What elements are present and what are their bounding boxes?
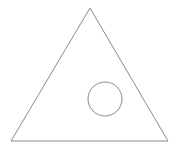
canvas-background bbox=[0, 0, 179, 152]
geometric-figure-canvas bbox=[0, 0, 179, 152]
